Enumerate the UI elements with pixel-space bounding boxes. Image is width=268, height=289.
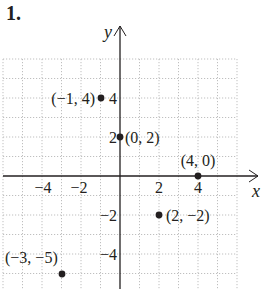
- y-tick-label: −2: [100, 207, 117, 224]
- point-dot-icon: [195, 173, 202, 180]
- point-4-0: (4, 0): [181, 152, 216, 179]
- point-dot-icon: [156, 212, 163, 219]
- point-dot-icon: [98, 95, 105, 102]
- y-tick-label: 4: [109, 90, 117, 107]
- x-tick-label: −2: [70, 179, 87, 196]
- point-neg1-4: (−1, 4): [51, 90, 104, 108]
- point-label: (4, 0): [181, 152, 216, 170]
- x-tick-labels: −4 −2 2 4: [34, 179, 202, 196]
- y-tick-label: −4: [100, 246, 117, 263]
- point-label: (0, 2): [125, 129, 160, 147]
- point-dot-icon: [117, 134, 124, 141]
- point-label: (2, −2): [166, 207, 210, 225]
- coordinate-plane: x y −4 −2 2 4 4 2 −2 −4 (−1, 4): [0, 0, 268, 289]
- x-tick-label: 2: [155, 179, 163, 196]
- point-neg3-neg5: (−3, −5): [5, 249, 65, 277]
- point-label: (−1, 4): [51, 90, 95, 108]
- x-tick-label: 4: [194, 179, 202, 196]
- point-0-2: (0, 2): [117, 129, 160, 147]
- problem-number: 1.: [6, 2, 21, 25]
- y-axis-label: y: [102, 22, 112, 42]
- point-label: (−3, −5): [5, 249, 58, 267]
- y-tick-label: 2: [109, 129, 117, 146]
- coordinate-plane-figure: 1. x y −4 −2 2 4 4 2 −2 −4: [0, 0, 268, 289]
- x-axis-label: x: [251, 181, 260, 201]
- x-tick-label: −4: [34, 179, 51, 196]
- point-dot-icon: [59, 271, 66, 278]
- point-2-neg2: (2, −2): [156, 207, 210, 225]
